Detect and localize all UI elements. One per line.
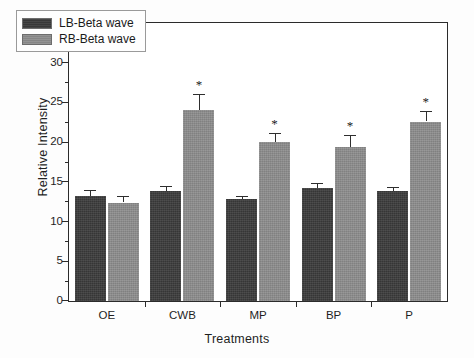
x-axis-tick-label-p: P [369,309,449,321]
y-axis-tick-label: 0 [23,295,63,307]
error-bar-cap [387,187,399,188]
bar-mp-rb [259,142,290,301]
x-axis-tick [145,301,146,307]
legend-swatch-lb-beta-wave [22,18,52,29]
bar-mp-lb [226,199,257,301]
legend-label-lb-beta-wave: LB-Beta wave [59,16,134,30]
y-axis-tick [62,181,69,182]
x-axis-tick [371,301,372,307]
y-axis-tick-label: 10 [23,216,63,228]
bar-bp-lb [302,188,333,301]
error-bar [199,94,200,110]
significance-marker: * [418,95,434,108]
bar-cwb-lb [150,191,181,301]
bar-p-rb [410,122,441,302]
y-axis-tick-label: 20 [23,136,63,148]
plot-area: 05101520253035OECWB*MP*BP*P* [68,22,448,302]
bar-p-lb [377,191,408,301]
error-bar-cap [236,196,248,197]
x-axis-tick-label-oe: OE [67,309,147,321]
x-axis-tick-label-bp: BP [294,309,374,321]
error-bar-cap [193,94,205,95]
legend-label-rb-beta-wave: RB-Beta wave [59,32,136,46]
y-axis-tick [62,261,69,262]
y-axis-tick-label: 5 [23,255,63,267]
error-bar-cap [117,196,129,197]
legend-item: LB-Beta wave [22,15,136,31]
x-axis-tick [296,301,297,307]
error-bar [350,135,351,147]
error-bar-cap [84,190,96,191]
y-axis-tick-label: 30 [23,57,63,69]
x-axis-label: Treatments [0,332,474,346]
error-bar-cap [344,135,356,136]
y-axis-tick [62,221,69,222]
error-bar-cap [420,111,432,112]
y-axis-tick-label: 25 [23,96,63,108]
bar-cwb-rb [183,110,214,301]
bar-bp-rb [335,147,366,301]
y-axis-minor-tick [65,241,69,242]
y-axis-tick-label: 15 [23,176,63,188]
error-bar-cap [269,133,281,134]
y-axis-minor-tick [65,201,69,202]
chart-legend: LB-Beta wave RB-Beta wave [16,10,146,52]
significance-marker: * [191,78,207,91]
significance-marker: * [267,117,283,130]
y-axis-minor-tick [65,122,69,123]
error-bar-cap [311,183,323,184]
x-axis-tick [220,301,221,307]
y-axis-minor-tick [65,281,69,282]
bar-oe-lb [75,196,106,301]
x-axis-tick-label-mp: MP [218,309,298,321]
significance-marker: * [342,119,358,132]
legend-swatch-rb-beta-wave [22,34,52,45]
y-axis-tick [62,62,69,63]
error-bar-cap [160,186,172,187]
x-axis-tick-label-cwb: CWB [142,309,222,321]
bar-chart-figure: Relative Intensity Treatments 0510152025… [0,0,474,358]
bar-oe-rb [108,203,139,301]
y-axis-minor-tick [65,82,69,83]
y-axis-tick [62,142,69,143]
error-bar [275,133,276,142]
y-axis-tick [62,300,69,301]
legend-item: RB-Beta wave [22,31,136,47]
y-axis-tick [62,102,69,103]
y-axis-minor-tick [65,162,69,163]
error-bar [426,111,427,121]
